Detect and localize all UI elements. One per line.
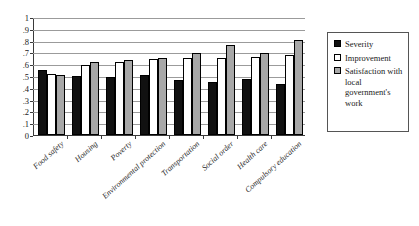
x-tick-mark xyxy=(135,136,136,139)
bar-satisfaction xyxy=(294,40,303,135)
bar-group xyxy=(140,18,167,135)
x-tick-mark xyxy=(271,136,272,139)
y-tick-label: .9 xyxy=(23,26,29,35)
y-tick-mark xyxy=(30,77,33,78)
x-axis-label: Poverty xyxy=(110,140,134,163)
y-tick-label: .5 xyxy=(23,73,29,82)
legend-label: Satisfaction with local government's wor… xyxy=(345,66,408,108)
bar-satisfaction xyxy=(158,58,167,135)
legend-swatch-improvement xyxy=(334,54,341,61)
bar-group xyxy=(208,18,235,135)
y-tick-mark xyxy=(30,42,33,43)
y-tick-label: .6 xyxy=(23,61,29,70)
bar-severity xyxy=(276,84,285,135)
bar-satisfaction xyxy=(124,60,133,135)
bar-severity xyxy=(140,75,149,135)
x-axis-label: Social order xyxy=(201,140,236,172)
legend-swatch-satisfaction xyxy=(334,67,341,74)
chart-legend: SeverityImprovementSatisfaction with loc… xyxy=(327,32,409,132)
bar-improvement xyxy=(217,58,226,135)
bar-improvement xyxy=(183,58,192,135)
x-tick-mark xyxy=(101,136,102,139)
bar-severity xyxy=(38,70,47,135)
bar-group xyxy=(38,18,65,135)
y-tick-label: .4 xyxy=(23,85,29,94)
legend-label: Severity xyxy=(345,39,373,50)
bar-improvement xyxy=(47,74,56,135)
bar-satisfaction xyxy=(260,53,269,135)
y-tick-label: .7 xyxy=(23,49,29,58)
x-tick-mark xyxy=(203,136,204,139)
bar-severity xyxy=(174,80,183,135)
y-tick-mark xyxy=(30,101,33,102)
bar-improvement xyxy=(285,55,294,135)
x-tick-mark xyxy=(67,136,68,139)
legend-swatch-severity xyxy=(334,40,341,47)
bar-satisfaction xyxy=(90,62,99,135)
bar-severity xyxy=(72,76,81,135)
y-tick-mark xyxy=(30,18,33,19)
y-tick-mark xyxy=(30,124,33,125)
bar-improvement xyxy=(115,62,124,135)
legend-label: Improvement xyxy=(345,53,391,64)
x-tick-mark xyxy=(237,136,238,139)
x-tick-mark xyxy=(169,136,170,139)
bar-group xyxy=(72,18,99,135)
y-tick-mark xyxy=(30,30,33,31)
bar-group xyxy=(276,18,303,135)
bar-satisfaction xyxy=(192,53,201,135)
legend-item[interactable]: Severity xyxy=(334,39,408,50)
bar-group xyxy=(242,18,269,135)
y-tick-label: 1 xyxy=(25,14,29,23)
plot-area: 0.1.2.3.4.5.6.7.8.91 xyxy=(33,18,305,136)
bar-satisfaction xyxy=(226,45,235,135)
y-tick-mark xyxy=(30,112,33,113)
x-axis-label: Housing xyxy=(74,140,100,164)
y-tick-label: .2 xyxy=(23,108,29,117)
legend-item[interactable]: Improvement xyxy=(334,53,408,64)
bar-improvement xyxy=(81,65,90,135)
x-axis-label: Food safety xyxy=(32,140,65,171)
x-axis-label: Health care xyxy=(236,140,269,171)
y-tick-mark xyxy=(30,53,33,54)
bar-severity xyxy=(106,77,115,135)
y-tick-mark xyxy=(30,65,33,66)
bar-chart-figure: 0.1.2.3.4.5.6.7.8.91 Food safetyHousingP… xyxy=(0,0,419,226)
bar-improvement xyxy=(251,57,260,135)
bar-satisfaction xyxy=(56,75,65,135)
bar-group xyxy=(106,18,133,135)
bar-severity xyxy=(242,79,251,135)
legend-item[interactable]: Satisfaction with local government's wor… xyxy=(334,66,408,108)
y-tick-label: .3 xyxy=(23,96,29,105)
y-tick-mark xyxy=(30,89,33,90)
y-tick-label: .8 xyxy=(23,37,29,46)
x-axis-label: Environmental protection xyxy=(101,140,167,201)
y-tick-mark xyxy=(30,136,33,137)
y-tick-label: .1 xyxy=(23,120,29,129)
bar-improvement xyxy=(149,59,158,135)
bar-severity xyxy=(208,82,217,135)
y-tick-label: 0 xyxy=(25,132,29,141)
bar-group xyxy=(174,18,201,135)
